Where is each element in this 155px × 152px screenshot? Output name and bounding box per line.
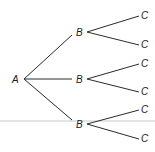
node-c6: C <box>141 133 149 144</box>
edge-b2-c4 <box>87 79 139 92</box>
edge-b2-c3 <box>87 64 139 79</box>
node-b1: B <box>76 27 83 38</box>
edge-a-b1 <box>24 35 72 79</box>
tree-diagram: A B B B C C C C C C <box>0 0 155 152</box>
node-b3: B <box>76 119 83 130</box>
edge-b1-c2 <box>87 32 139 45</box>
node-b2: B <box>76 74 83 85</box>
node-a: A <box>11 74 19 85</box>
node-c4: C <box>141 86 149 97</box>
edge-b1-c1 <box>87 16 139 32</box>
edge-a-b3 <box>24 79 72 120</box>
node-c3: C <box>141 58 149 69</box>
edge-b3-c6 <box>87 124 139 139</box>
node-c5: C <box>141 104 149 115</box>
node-c2: C <box>141 39 149 50</box>
node-c1: C <box>141 10 149 21</box>
